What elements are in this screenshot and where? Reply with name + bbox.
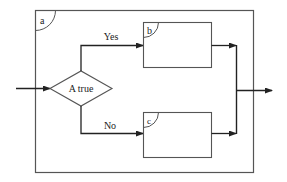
no-branch: No (81, 106, 143, 134)
diagram-svg: a A true Yes No b c (0, 0, 287, 182)
outer-block-label: a (40, 15, 45, 26)
selection-flowchart: a A true Yes No b c (0, 0, 287, 182)
merge-connector (212, 45, 237, 134)
decision-diamond: A true (50, 71, 112, 106)
block-c: c (144, 113, 212, 158)
block-b: b (144, 23, 212, 68)
yes-label: Yes (104, 31, 119, 42)
yes-branch: Yes (81, 31, 143, 71)
no-label: No (104, 120, 116, 131)
block-b-label: b (147, 25, 152, 36)
decision-label: A true (69, 83, 94, 94)
block-c-label: c (147, 116, 151, 126)
